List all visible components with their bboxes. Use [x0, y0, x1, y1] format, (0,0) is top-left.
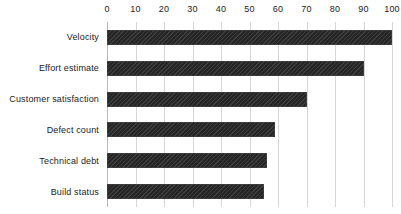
bar — [107, 153, 267, 168]
bar — [107, 92, 307, 107]
x-tick-label: 40 — [216, 4, 226, 14]
gridline-100 — [392, 22, 393, 207]
x-tick-label: 100 — [384, 4, 400, 14]
x-tick-label: 30 — [187, 4, 197, 14]
y-category-label: Defect count — [47, 125, 99, 135]
y-axis-category-labels: VelocityEffort estimateCustomer satisfac… — [0, 22, 103, 207]
bar-series — [107, 22, 392, 207]
plot-area — [107, 22, 392, 207]
x-tick-label: 20 — [159, 4, 169, 14]
x-tick-label: 50 — [244, 4, 254, 14]
x-tick-label: 80 — [330, 4, 340, 14]
y-category-label: Technical debt — [39, 156, 99, 166]
y-category-label: Effort estimate — [39, 63, 99, 73]
x-tick-label: 90 — [358, 4, 368, 14]
x-tick-label: 60 — [273, 4, 283, 14]
x-tick-label: 0 — [104, 4, 109, 14]
y-category-label: Build status — [51, 187, 99, 197]
x-tick-label: 70 — [301, 4, 311, 14]
bar — [107, 122, 275, 137]
x-axis-tick-labels: 0102030405060708090100 — [0, 0, 401, 22]
y-category-label: Customer satisfaction — [9, 94, 99, 104]
y-category-label: Velocity — [67, 32, 99, 42]
bar — [107, 30, 392, 45]
bar — [107, 184, 264, 199]
x-tick-label: 10 — [130, 4, 140, 14]
bar-chart: 0102030405060708090100 VelocityEffort es… — [0, 0, 401, 214]
bar — [107, 61, 364, 76]
